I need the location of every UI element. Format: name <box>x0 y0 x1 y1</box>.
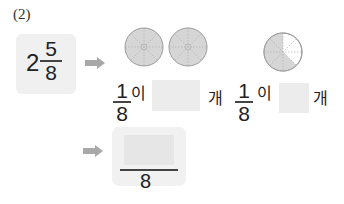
unit-denominator: 8 <box>238 103 250 124</box>
unit-fraction: 1 8 <box>235 80 253 124</box>
arrow-right-icon <box>85 57 105 69</box>
particle-text: 이 <box>257 80 272 104</box>
answer-box-step2[interactable] <box>279 83 309 113</box>
unit-numerator: 1 <box>116 80 128 101</box>
particle-text: 이 <box>131 80 146 104</box>
unit-fraction: 1 8 <box>113 80 131 124</box>
mixed-numerator: 5 <box>45 38 57 60</box>
result-denominator: 8 <box>140 171 151 191</box>
full-circle-icon <box>124 27 164 67</box>
mixed-denominator: 8 <box>45 62 57 84</box>
mixed-fraction: 5 8 <box>40 38 62 84</box>
unit-denominator: 8 <box>116 103 128 124</box>
problem-number: (2) <box>13 6 31 23</box>
result-numerator-input[interactable] <box>124 135 174 165</box>
partial-circle-icon <box>263 32 303 72</box>
unit-numerator: 1 <box>238 80 250 101</box>
answer-box-step1[interactable] <box>152 80 200 111</box>
counter-text: 개 <box>313 85 328 109</box>
arrow-right-icon <box>83 145 103 157</box>
full-circle-icon <box>168 27 208 67</box>
counter-text: 개 <box>208 85 223 109</box>
mixed-whole: 2 <box>26 49 39 77</box>
